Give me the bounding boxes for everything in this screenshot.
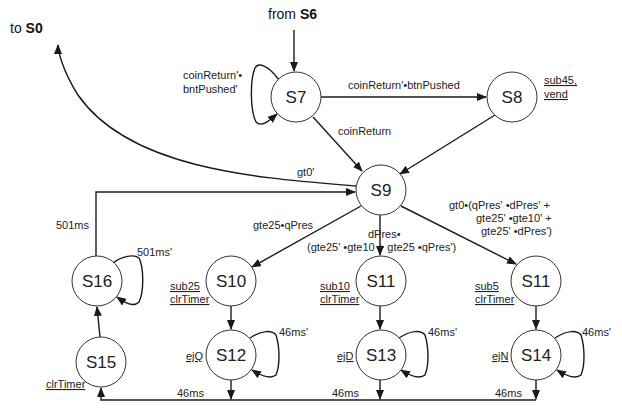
action-s15-clrtimer: clrTimer xyxy=(46,378,86,390)
label-s7-s8: coinReturn'•btnPushed xyxy=(348,79,460,91)
label-s12-self: 46ms' xyxy=(279,326,308,338)
state-s12[interactable]: S12 xyxy=(206,330,256,380)
label-s16-s9: 501ms xyxy=(56,219,90,231)
svg-text:S7: S7 xyxy=(286,88,307,107)
svg-text:S15: S15 xyxy=(86,353,116,372)
action-s8-sub45: sub45, xyxy=(544,74,577,86)
edge-s9-s10 xyxy=(252,206,361,267)
action-s11a-clrtimer: clrTimer xyxy=(320,293,360,305)
label-s7-self-2: bntPushed' xyxy=(183,83,238,95)
state-diagram: from S6 to S0 S7 S8 S9 xyxy=(0,0,622,415)
svg-text:S11: S11 xyxy=(367,272,396,291)
label-s13-out: 46ms xyxy=(332,387,359,399)
svg-text:S16: S16 xyxy=(82,272,112,291)
label-s9-s11b-3: gte25' •dPres') xyxy=(481,225,552,237)
state-s11-middle[interactable]: S11 xyxy=(356,256,406,306)
svg-text:S11: S11 xyxy=(522,272,551,291)
svg-text:S13: S13 xyxy=(366,346,396,365)
svg-text:S9: S9 xyxy=(371,181,392,200)
state-s10[interactable]: S10 xyxy=(206,256,256,306)
action-s10-sub25: sub25 xyxy=(170,280,200,292)
action-s12-ejq: ejQ xyxy=(186,350,204,362)
state-s11-right[interactable]: S11 xyxy=(511,256,561,306)
label-s16-self: 501ms' xyxy=(137,246,172,258)
label-s7-self-1: coinReturn'• xyxy=(183,69,242,81)
action-s10-clrtimer: clrTimer xyxy=(170,293,210,305)
to-s0-label: to S0 xyxy=(10,20,43,36)
action-s11a-sub10: sub10 xyxy=(320,280,350,292)
state-s8[interactable]: S8 xyxy=(487,72,537,122)
edge-s15-s16 xyxy=(97,307,100,337)
state-s14[interactable]: S14 xyxy=(511,330,561,380)
label-s9-s10: gte25•qPres xyxy=(253,219,314,231)
label-s13-self: 46ms' xyxy=(428,326,457,338)
svg-text:S12: S12 xyxy=(216,346,246,365)
state-s16[interactable]: S16 xyxy=(72,256,122,306)
label-s9-s11a-2: (gte25' •gte10 + gte25 •qPres') xyxy=(307,241,456,253)
action-s14-ejn: ejN xyxy=(492,350,509,362)
action-s8-vend: vend xyxy=(544,88,568,100)
label-s14-out: 46ms xyxy=(495,387,522,399)
edge-bus-s15 xyxy=(101,388,536,400)
label-s9-s0: gt0' xyxy=(297,166,314,178)
label-s9-s11a-1: dPres• xyxy=(368,228,401,240)
state-s9[interactable]: S9 xyxy=(356,165,406,215)
label-s14-self: 46ms' xyxy=(582,326,611,338)
svg-text:S10: S10 xyxy=(216,272,246,291)
label-s12-out: 46ms xyxy=(177,387,204,399)
svg-text:S14: S14 xyxy=(521,346,551,365)
from-s6-label: from S6 xyxy=(268,6,317,22)
action-s13-ejd: ejD xyxy=(337,350,354,362)
action-s11b-sub5: sub5 xyxy=(475,280,499,292)
label-s9-s11b-2: gte25' •gte10' + xyxy=(476,212,552,224)
edge-s8-s9 xyxy=(400,115,495,174)
svg-text:S8: S8 xyxy=(502,88,523,107)
action-s11b-clrtimer: clrTimer xyxy=(475,293,515,305)
label-s9-s11b-1: gt0•(qPres' •dPres' + xyxy=(449,199,550,211)
label-s7-s9: coinReturn xyxy=(338,125,391,137)
state-s13[interactable]: S13 xyxy=(356,330,406,380)
state-s7[interactable]: S7 xyxy=(271,72,321,122)
